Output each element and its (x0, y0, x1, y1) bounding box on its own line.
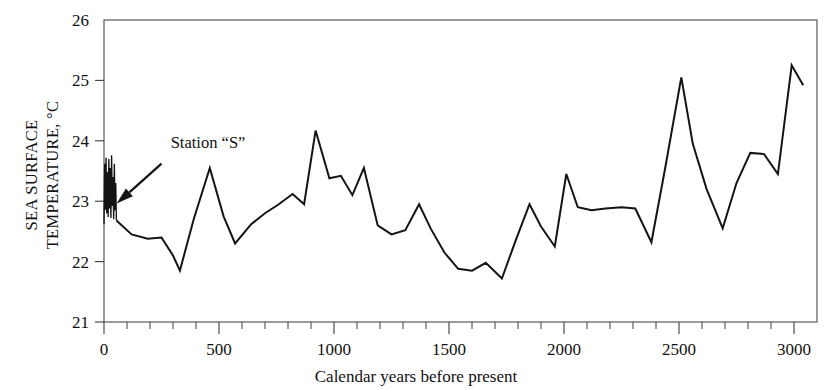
x-tick-label-1500: 1500 (432, 340, 466, 359)
sea-surface-temperature-line-chart: 212223242526 050010001500200025003000 St… (0, 0, 833, 390)
y-tick-label-21: 21 (72, 313, 89, 332)
y-axis-tick-labels: 212223242526 (72, 11, 90, 332)
y-tick-label-25: 25 (72, 71, 89, 90)
y-tick-label-23: 23 (72, 192, 89, 211)
annotation-group: Station “S” (117, 133, 246, 204)
y-axis-ticks (95, 80, 104, 322)
x-tick-label-1000: 1000 (317, 340, 351, 359)
y-axis-title-line1: SEA SURFACE (22, 120, 41, 231)
x-tick-label-3000: 3000 (777, 340, 811, 359)
station-s-leader-line (129, 164, 161, 193)
x-tick-label-2000: 2000 (547, 340, 581, 359)
y-tick-label-24: 24 (72, 132, 90, 151)
x-axis-title: Calendar years before present (315, 367, 518, 386)
x-tick-label-500: 500 (206, 340, 232, 359)
y-tick-label-26: 26 (72, 11, 89, 30)
data-series-group (104, 65, 803, 278)
x-tick-label-0: 0 (100, 340, 109, 359)
y-axis-title-line2: TEMPERATURE, °C (43, 101, 62, 250)
station-s-annotation-label: Station “S” (171, 133, 246, 152)
x-axis-ticks (104, 322, 794, 334)
sst-reconstruction-line (116, 65, 803, 278)
y-tick-label-22: 22 (72, 253, 89, 272)
x-tick-label-2500: 2500 (662, 340, 696, 359)
station-s-instrumental-line (104, 155, 116, 224)
x-axis-tick-labels: 050010001500200025003000 (100, 340, 811, 359)
chart-figure: 212223242526 050010001500200025003000 St… (0, 0, 833, 390)
